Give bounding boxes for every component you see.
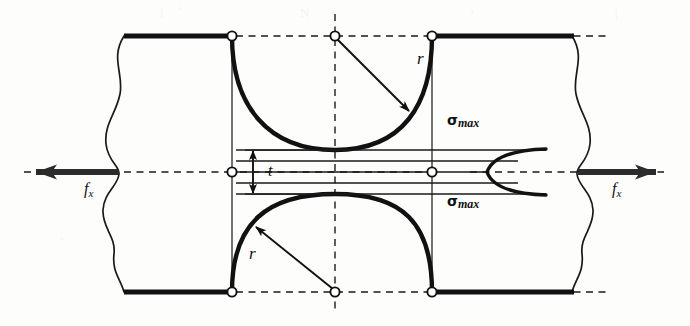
svg-text:ʼ: ʼ (470, 6, 474, 21)
svg-text:ʻ: ʻ (178, 4, 183, 19)
sigma-max-label-top: σmax (447, 113, 479, 129)
svg-text:|: | (615, 5, 618, 20)
sigma-symbol-top: σ (447, 112, 458, 128)
radius-leaders (256, 39, 409, 289)
radius-leader-bottom (256, 227, 333, 289)
node-bottom-center (330, 287, 339, 296)
node-centerline-right (427, 167, 436, 176)
node-centerline-left (227, 167, 236, 176)
sigma-subscript-top: max (458, 116, 479, 130)
sigma-symbol-bottom: σ (447, 193, 458, 209)
radius-leader-top (337, 39, 409, 111)
force-label-left: fx (84, 181, 93, 199)
joint-nodes (227, 31, 436, 296)
node-bottom-right-notch (427, 287, 436, 296)
radius-label-bottom: r (249, 245, 256, 262)
force-label-right-subscript: x (616, 187, 621, 199)
right-plate (432, 36, 593, 292)
left-plate (103, 36, 232, 292)
sigma-subscript-bottom: max (458, 197, 479, 211)
thickness-label: t (268, 163, 272, 179)
radius-label-top: r (417, 50, 424, 67)
node-top-left-notch (227, 31, 236, 40)
notch-profiles (232, 36, 432, 292)
sigma-max-label-bottom: σmax (447, 194, 479, 210)
construction-lines (24, 14, 664, 314)
node-top-center (330, 31, 339, 40)
bottom-notch-arc (232, 194, 432, 292)
force-label-right: fx (612, 181, 621, 199)
svg-text:N: N (300, 5, 310, 20)
left-break-line (103, 36, 124, 292)
svg-text:l: l (160, 6, 164, 21)
node-top-right-notch (427, 31, 436, 40)
node-bottom-left-notch (227, 287, 236, 296)
svg-text:.: . (60, 228, 63, 243)
force-label-left-subscript: x (88, 187, 93, 199)
top-notch-arc (232, 36, 432, 150)
diagram-canvas: l ʻ N ʼ | . (0, 0, 690, 326)
right-break-line (572, 36, 593, 292)
stress-concentration-figure: l ʻ N ʼ | . (0, 0, 690, 326)
